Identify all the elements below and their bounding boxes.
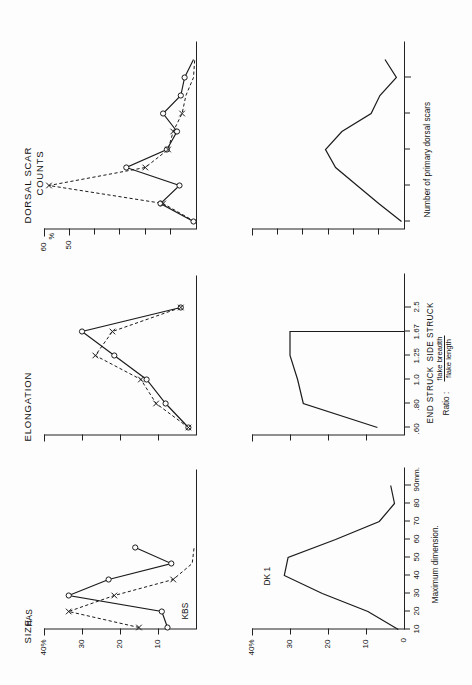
size-has-point [170, 576, 176, 582]
elong-has-point [93, 352, 99, 358]
panel-size-upper: SIZE 40% 30 20 10 HAS KBS [18, 463, 214, 663]
dorsal-upper-plot [18, 19, 214, 251]
dorsal-has-point [143, 164, 149, 170]
elong-kbs-point [112, 352, 117, 357]
elong-dk1-line [290, 331, 404, 427]
dorsal-kbs-point [178, 92, 183, 97]
dorsal-has-point [179, 110, 185, 116]
size-dk1-line [284, 485, 398, 629]
elong-kbs-line [82, 307, 188, 427]
size-kbs-point [159, 608, 164, 613]
size-kbs-point [66, 592, 71, 597]
dorsal-kbs-point [161, 110, 166, 115]
elong-kbs-point [144, 376, 149, 381]
size-has-line [69, 547, 194, 627]
elong-has-point [153, 400, 159, 406]
dorsal-kbs-point [182, 74, 187, 79]
elongation-dk1-plot [236, 257, 460, 457]
dorsal-kbs-point [191, 218, 196, 223]
size-has-point [112, 592, 118, 598]
elong-kbs-point [79, 328, 84, 333]
size-upper-plot [18, 463, 214, 663]
panel-elongation-dk1: .60 .80 1.0 1.25 1.67 2.5 END STRUCK SID… [236, 257, 460, 457]
dorsal-kbs-line [126, 59, 193, 221]
dorsal-dk1-line [326, 59, 402, 221]
elongation-upper-plot [18, 257, 214, 457]
rotated-figure-canvas: SIZE 40% 30 20 10 HAS KBS [0, 0, 472, 685]
panel-dorsal-upper: DORSAL SCAR COUNTS 60 % 50 [18, 19, 214, 251]
size-kbs-point [169, 560, 174, 565]
dorsal-kbs-point [177, 182, 182, 187]
panel-elongation-upper: ELONGATION [18, 257, 214, 457]
size-kbs-point [133, 544, 138, 549]
dorsal-dk1-plot [236, 19, 460, 251]
size-kbs-point [106, 576, 111, 581]
dorsal-kbs-point [124, 164, 129, 169]
size-kbs-point [165, 624, 170, 629]
figure-page: SIZE 40% 30 20 10 HAS KBS [0, 0, 472, 685]
elong-kbs-point [163, 400, 168, 405]
panel-size-dk1: 40% 30 20 10 0 10 20 30 40 50 60 70 80 9… [236, 463, 460, 663]
elong-has-point [138, 376, 144, 382]
panel-dorsal-dk1: Number of primary dorsal scars [236, 19, 460, 251]
size-dk1-plot [236, 463, 460, 663]
